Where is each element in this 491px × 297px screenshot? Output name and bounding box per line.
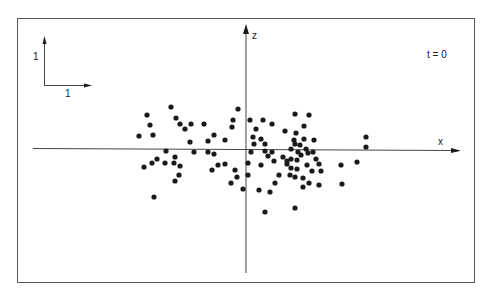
data-point <box>318 168 323 173</box>
scale-bar-vertical-arrow-icon <box>43 36 47 44</box>
data-point <box>311 137 316 142</box>
data-point <box>287 172 292 177</box>
data-point <box>150 132 155 137</box>
data-point <box>288 165 293 170</box>
data-point <box>240 186 245 191</box>
data-point <box>187 139 192 144</box>
data-point <box>294 166 299 171</box>
data-point <box>292 141 297 146</box>
data-point <box>211 132 216 137</box>
data-point <box>271 158 276 163</box>
data-point <box>363 144 368 149</box>
data-point <box>292 205 297 210</box>
data-point <box>338 162 343 167</box>
data-point <box>205 138 210 143</box>
data-point <box>298 152 303 157</box>
data-point <box>251 141 256 146</box>
z-axis-arrowhead-icon <box>243 24 249 34</box>
data-point <box>215 162 220 167</box>
data-point <box>253 126 258 131</box>
scale-bar-horizontal-arrow-icon <box>84 84 92 88</box>
data-points <box>136 104 368 214</box>
data-point <box>201 121 206 126</box>
data-point <box>306 112 311 117</box>
x-axis-arrowhead-icon <box>451 148 461 153</box>
data-point <box>310 149 315 154</box>
data-point <box>363 134 368 139</box>
data-point <box>301 136 306 141</box>
data-point <box>282 128 287 133</box>
data-point <box>313 156 318 161</box>
scale-bar-horizontal-label: 1 <box>65 89 71 99</box>
data-point <box>288 156 293 161</box>
data-point <box>151 194 156 199</box>
scatter-figure: 1 1 z x t = 0 <box>0 0 491 297</box>
data-point <box>276 172 281 177</box>
data-point <box>297 142 302 147</box>
data-point <box>205 149 210 154</box>
data-point <box>262 141 267 146</box>
scale-bar-vertical-label: 1 <box>33 52 39 62</box>
data-point <box>136 133 141 138</box>
data-point <box>162 160 167 165</box>
data-point <box>269 121 274 126</box>
data-point <box>176 172 181 177</box>
data-point <box>144 112 149 117</box>
data-point <box>247 117 252 122</box>
data-point <box>269 149 274 154</box>
data-point <box>258 162 263 167</box>
data-point <box>234 174 239 179</box>
data-point <box>354 159 359 164</box>
data-point <box>188 121 193 126</box>
data-point <box>222 161 227 166</box>
data-point <box>209 167 214 172</box>
data-point <box>292 174 297 179</box>
data-point <box>288 146 293 151</box>
data-point <box>229 124 234 129</box>
data-point <box>211 151 216 156</box>
data-point <box>339 181 344 186</box>
plot-canvas <box>0 0 491 297</box>
data-point <box>141 164 146 169</box>
z-axis-label: z <box>252 31 257 41</box>
data-point <box>154 156 159 161</box>
data-point <box>316 182 321 187</box>
data-point <box>228 180 233 185</box>
data-point <box>301 123 306 128</box>
data-point <box>258 136 263 141</box>
data-point <box>147 122 152 127</box>
data-point <box>191 149 196 154</box>
data-point <box>300 184 305 189</box>
data-point <box>177 121 182 126</box>
data-point <box>267 189 272 194</box>
data-point <box>172 178 177 183</box>
x-axis-line <box>33 149 455 151</box>
data-point <box>262 209 267 214</box>
data-point <box>245 160 250 165</box>
data-point <box>280 154 285 159</box>
data-point <box>222 137 227 142</box>
data-point <box>171 160 176 165</box>
data-point <box>149 160 154 165</box>
data-point <box>262 148 267 153</box>
data-point <box>304 162 309 167</box>
data-point <box>256 187 261 192</box>
data-point <box>305 150 310 155</box>
data-point <box>292 111 297 116</box>
data-point <box>172 154 177 159</box>
data-point <box>177 163 182 168</box>
data-point <box>173 115 178 120</box>
data-point <box>306 180 311 185</box>
data-point <box>294 157 299 162</box>
x-axis-label: x <box>438 137 443 147</box>
data-point <box>230 117 235 122</box>
data-point <box>265 153 270 158</box>
data-point <box>293 130 298 135</box>
data-point <box>163 148 168 153</box>
data-point <box>235 106 240 111</box>
data-point <box>168 104 173 109</box>
data-point <box>272 180 277 185</box>
data-point <box>260 117 265 122</box>
data-point <box>248 149 253 154</box>
data-point <box>232 167 237 172</box>
